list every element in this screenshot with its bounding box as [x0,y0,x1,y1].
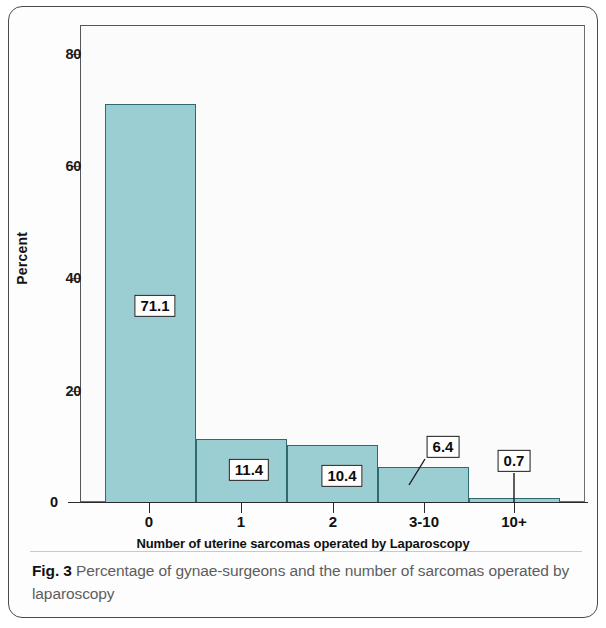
x-axis-tick-3-10 [424,502,425,513]
bar-category-3-10 [378,467,469,503]
figure-caption-text: Percentage of gynae-surgeons and the num… [32,562,569,602]
x-axis-tick-10-plus [514,502,515,513]
x-tick-label-2: 2 [329,513,337,530]
x-tick-label-1: 1 [237,513,245,530]
x-axis-tick-0 [149,502,150,513]
data-label-category-3-10: 6.4 [427,436,460,458]
figure-number: Fig. 3 [32,562,72,579]
chart-figure: Percent 80 60 40 20 0 0 [0,0,606,545]
y-axis-title: Percent [14,232,36,285]
y-tick-label-20: 20 [35,383,81,399]
x-tick-label-0: 0 [145,513,153,530]
x-axis-tick-2 [333,502,334,513]
data-label-category-1: 11.4 [229,459,269,481]
caption-divider [30,551,582,552]
data-label-category-0: 71.1 [134,295,175,317]
y-tick-label-60: 60 [35,158,81,174]
data-label-category-10-plus: 0.7 [498,450,531,472]
x-axis-tick-1 [241,502,242,513]
y-tick-label-40: 40 [35,270,81,286]
x-axis-line [68,502,588,503]
plot-area: 80 60 40 20 [80,25,585,502]
data-label-category-2: 10.4 [321,465,362,487]
x-tick-label-3-10: 3-10 [409,513,439,530]
y-tick-label-80: 80 [35,46,81,62]
figure-caption: Fig. 3 Percentage of gynae-surgeons and … [32,560,578,606]
y-tick-label-0: 0 [50,494,58,510]
x-axis-title: Number of uterine sarcomas operated by L… [0,536,606,551]
x-tick-label-10-plus: 10+ [501,513,526,530]
